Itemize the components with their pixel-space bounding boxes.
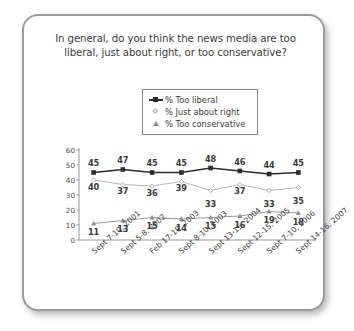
data-value-label: 45 (88, 158, 100, 168)
diamond-data-marker (296, 185, 300, 189)
y-tick-label: 40 (66, 176, 76, 185)
y-tick-label: 30 (66, 191, 76, 200)
y-tick-label: 20 (66, 206, 76, 215)
y-tick-label: 50 (66, 161, 76, 170)
data-value-label: 33 (263, 199, 275, 209)
data-value-label: 45 (146, 158, 158, 168)
data-value-label: 47 (117, 155, 129, 165)
square-data-marker (179, 170, 184, 175)
legend-item-too-liberal[interactable]: % Too liberal (148, 94, 251, 106)
data-value-label: 33 (205, 199, 217, 209)
data-value-label: 37 (117, 186, 129, 196)
y-tick-label: 60 (66, 146, 76, 155)
y-tick-label: 0 (70, 236, 75, 245)
square-data-marker (296, 170, 301, 175)
triangle-data-marker (267, 209, 272, 214)
y-tick-label: 10 (66, 221, 76, 230)
legend-item-too-conservative[interactable]: % Too conservative (148, 118, 251, 130)
data-value-label: 45 (176, 158, 188, 168)
data-value-label: 39 (176, 183, 188, 193)
square-data-marker (267, 172, 272, 177)
legend-item-just-about-right[interactable]: % Just about right (148, 106, 251, 118)
data-value-label: 36 (146, 188, 158, 198)
square-data-marker (208, 166, 213, 171)
square-data-marker (238, 169, 243, 174)
data-value-label: 46 (234, 157, 246, 167)
square-data-marker (91, 170, 96, 175)
data-value-label: 40 (88, 182, 100, 192)
data-value-label: 44 (263, 160, 275, 170)
square-marker-icon (148, 94, 164, 106)
chart-title: In general, do you think the news media … (40, 32, 311, 60)
diamond-data-marker (209, 188, 213, 192)
screenshot-root: In general, do you think the news media … (0, 0, 354, 331)
legend-label: % Too conservative (165, 119, 245, 129)
legend-label: % Just about right (165, 107, 240, 117)
x-axis-labels: Sept 7-10, 2001Sept 5-8, 2002Feb 17-19, … (57, 247, 322, 311)
data-value-label: 11 (88, 227, 100, 237)
legend-label: % Too liberal (165, 95, 218, 105)
data-value-label: 45 (293, 158, 305, 168)
square-data-marker (121, 167, 126, 172)
chart-card: In general, do you think the news media … (22, 14, 325, 311)
chart-legend: % Too liberal % Just about right % Too c… (142, 89, 258, 135)
diamond-data-marker (267, 188, 271, 192)
data-value-label: 37 (234, 186, 246, 196)
square-data-marker (150, 170, 155, 175)
diamond-marker-icon (148, 106, 164, 118)
data-value-label: 35 (293, 196, 305, 206)
data-value-label: 48 (205, 154, 217, 164)
triangle-marker-icon (148, 118, 164, 130)
